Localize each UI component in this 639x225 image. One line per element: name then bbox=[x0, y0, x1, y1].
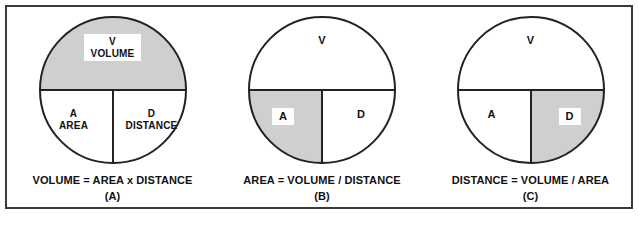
label-distance-c: D bbox=[558, 108, 580, 125]
label-area-c: A bbox=[487, 108, 495, 121]
equation-c: DISTANCE = VOLUME / AREA bbox=[426, 173, 635, 189]
segment-left-area-b bbox=[249, 90, 322, 163]
label-volume-b: V bbox=[318, 34, 326, 47]
label-area-b: A bbox=[272, 108, 294, 125]
label-volume-a: V VOLUME bbox=[84, 34, 142, 61]
panel-tag-c: (C) bbox=[426, 189, 635, 205]
diagram-panel-b: V A D AREA = VOLUME / DISTANCE (B) bbox=[218, 7, 426, 207]
formula-circle-b: V A D bbox=[244, 12, 400, 168]
figure-frame: V VOLUME A AREA D DISTANCE VOLUME = AREA… bbox=[5, 5, 633, 209]
label-volume-c: V bbox=[527, 34, 535, 47]
segment-left-area-c bbox=[458, 90, 531, 163]
diagram-panel-c: V A D DISTANCE = VOLUME / AREA (C) bbox=[426, 7, 635, 207]
diagram-panel-a: V VOLUME A AREA D DISTANCE VOLUME = AREA… bbox=[7, 7, 218, 207]
equation-a: VOLUME = AREA x DISTANCE bbox=[7, 173, 218, 189]
panel-tag-a: (A) bbox=[7, 189, 218, 205]
formula-circle-c: V A D bbox=[453, 12, 609, 168]
caption-a: VOLUME = AREA x DISTANCE (A) bbox=[7, 173, 218, 205]
label-distance-b: D bbox=[357, 108, 365, 121]
segment-top-volume-b bbox=[249, 17, 395, 90]
panel-tag-b: (B) bbox=[218, 189, 426, 205]
segment-top-volume-c bbox=[458, 17, 604, 90]
equation-b: AREA = VOLUME / DISTANCE bbox=[218, 173, 426, 189]
segment-right-distance-b bbox=[322, 90, 395, 163]
caption-c: DISTANCE = VOLUME / AREA (C) bbox=[426, 173, 635, 205]
caption-b: AREA = VOLUME / DISTANCE (B) bbox=[218, 173, 426, 205]
label-distance-a: D DISTANCE bbox=[126, 108, 178, 131]
formula-circle-a: V VOLUME A AREA D DISTANCE bbox=[35, 12, 191, 168]
segment-right-distance-c bbox=[531, 90, 604, 163]
label-area-a: A AREA bbox=[59, 108, 88, 131]
